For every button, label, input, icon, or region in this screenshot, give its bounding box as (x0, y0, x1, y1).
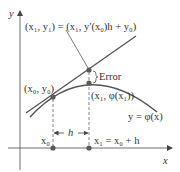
curve-label: y = φ(x) (128, 111, 163, 123)
start-point-label: (x₀, y₀) (24, 83, 55, 95)
step-h-label: h (68, 127, 73, 138)
euler-point-leader (66, 30, 88, 68)
x0-tick-label: x₀ (41, 135, 50, 146)
euler-point-label: (x₁, y₁) = (x₁, y′(x₀)h + y₀) (25, 21, 137, 33)
x1-axis-dot (86, 145, 91, 150)
error-brace (93, 71, 98, 83)
y-axis-label: y (8, 8, 14, 19)
true-point-dot (86, 80, 91, 85)
euler-method-diagram: y x (x₁, y₁) = (x₁, y′(x₀)h + y₀) Error … (0, 0, 180, 172)
start-point-dot (50, 94, 55, 99)
x0-axis-dot (50, 145, 55, 150)
euler-point-dot (86, 67, 91, 72)
true-point-label: (x₁, φ(x₁)) (91, 90, 135, 102)
error-label: Error (99, 71, 122, 82)
x1-tick-label: x₁ = x₀ + h (94, 135, 140, 146)
x-axis-label: x (162, 155, 168, 166)
